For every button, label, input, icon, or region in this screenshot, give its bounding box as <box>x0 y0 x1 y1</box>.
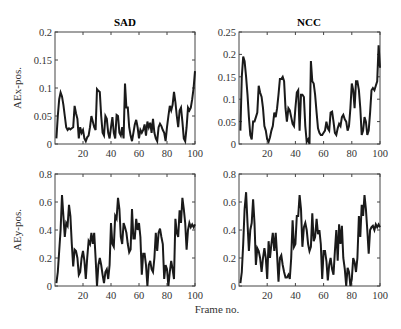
y-tick-label: 0.4 <box>39 225 53 236</box>
x-tick-label: 20 <box>262 290 273 301</box>
x-tick-label: 100 <box>187 148 203 159</box>
y-tick-label: 0.2 <box>223 253 236 264</box>
y-axis-label-aex: AEx-pos. <box>11 67 23 109</box>
figure: SAD AEx-pos. 00.050.10.150.2 20406080100… <box>0 0 401 329</box>
y-tick-label: 0.2 <box>39 27 52 38</box>
x-tick-label: 100 <box>187 290 203 301</box>
y-axis-label-aey: AEy-pos. <box>11 209 23 251</box>
panel-sad-aex: SAD AEx-pos. 00.050.10.150.2 20406080100 <box>11 16 203 159</box>
y-tick-label: 0.05 <box>34 111 52 122</box>
panel-title-sad: SAD <box>114 16 136 28</box>
y-tick-label: 0.25 <box>218 27 236 38</box>
x-tick-label: 80 <box>347 148 358 159</box>
y-tick-label: 0.05 <box>218 117 236 128</box>
panel-sad-aey: AEy-pos. 00.20.40.60.8 20406080100 <box>11 169 203 301</box>
x-axis-label: Frame no. <box>195 303 240 315</box>
panel-ncc-aey: 00.20.40.60.8 20406080100 <box>223 169 388 301</box>
x-tick-label: 40 <box>106 290 117 301</box>
x-tick-label: 20 <box>262 148 273 159</box>
data-line <box>240 192 380 286</box>
y-tick-label: 0.15 <box>34 55 52 66</box>
data-line <box>56 71 195 141</box>
y-tick-label: 0.15 <box>218 72 236 83</box>
x-tick-label: 100 <box>372 148 388 159</box>
x-tick-label: 20 <box>78 148 89 159</box>
y-tick-label: 0.2 <box>223 49 236 60</box>
y-tick-label: 0.6 <box>223 197 236 208</box>
x-tick-label: 20 <box>78 290 89 301</box>
y-tick-label: 0 <box>47 139 52 150</box>
y-tick-label: 0 <box>231 281 236 292</box>
x-tick-label: 40 <box>290 290 301 301</box>
x-tick-label: 80 <box>162 148 173 159</box>
y-tick-label: 0.1 <box>223 94 236 105</box>
y-tick-label: 0.1 <box>39 83 52 94</box>
x-tick-label: 80 <box>162 290 173 301</box>
data-line <box>56 195 195 286</box>
y-tick-label: 0.2 <box>39 253 52 264</box>
panel-ncc-aex: NCC 00.050.10.150.20.25 20406080100 <box>218 16 388 159</box>
y-tick-label: 0 <box>231 139 236 150</box>
y-tick-label: 0.6 <box>39 197 52 208</box>
data-line <box>240 45 380 144</box>
x-tick-label: 60 <box>134 290 145 301</box>
y-tick-label: 0.8 <box>223 169 236 180</box>
x-tick-label: 60 <box>318 290 329 301</box>
x-tick-label: 60 <box>318 148 329 159</box>
y-ticks: 00.20.40.60.8 <box>39 169 195 292</box>
x-tick-label: 60 <box>134 148 145 159</box>
panel-title-ncc: NCC <box>297 16 321 28</box>
x-tick-label: 80 <box>347 290 358 301</box>
y-tick-label: 0 <box>47 281 52 292</box>
x-tick-label: 100 <box>372 290 388 301</box>
x-ticks: 20406080100 <box>262 32 388 159</box>
y-tick-label: 0.4 <box>223 225 237 236</box>
x-tick-label: 40 <box>106 148 117 159</box>
y-tick-label: 0.8 <box>39 169 52 180</box>
x-tick-label: 40 <box>290 148 301 159</box>
